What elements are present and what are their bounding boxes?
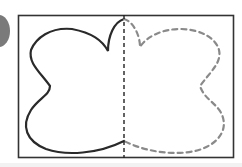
dashed-mirror-outline [124, 19, 224, 153]
bottom-strip [0, 163, 242, 167]
symmetry-diagram [0, 0, 242, 167]
solid-half-outline [26, 19, 124, 153]
